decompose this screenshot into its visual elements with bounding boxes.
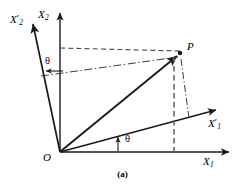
- axis-x1-prime-line: [60, 110, 216, 152]
- axis-label-x1-sub: 1: [210, 160, 214, 169]
- axis-label-x2-prime-base: X: [10, 13, 17, 25]
- point-p-marker: [178, 51, 183, 56]
- axis-label-x1-prime-base: X: [208, 117, 215, 129]
- axis-label-x2-prime-sub: 2: [19, 18, 23, 27]
- axis-label-x1-prime-sub: 1: [217, 122, 221, 131]
- angle-label-upper-theta: θ: [45, 57, 50, 66]
- axis-label-x1-base: X: [203, 155, 210, 167]
- axis-label-x2: X2: [38, 9, 49, 22]
- axis-label-x1-prime: X′1: [208, 118, 221, 131]
- axis-label-x1: X1: [203, 156, 214, 169]
- angle-label-lower-theta: θ: [125, 135, 130, 144]
- figure-container: X′2 X2 X′1 X1 O P θ θ (a): [0, 0, 245, 191]
- origin-label: O: [43, 152, 51, 163]
- axis-label-x2-base: X: [38, 8, 45, 20]
- axis-label-x2-sub: 2: [45, 13, 49, 22]
- figure-caption: (a): [0, 170, 245, 179]
- axis-label-x2-prime: X′2: [10, 14, 23, 27]
- point-label-p: P: [187, 41, 194, 52]
- projection-dashed-to-x2: [60, 48, 180, 51]
- axis-x2-prime-line: [33, 24, 60, 152]
- projection-dashdot-to-x1-prime: [181, 59, 189, 118]
